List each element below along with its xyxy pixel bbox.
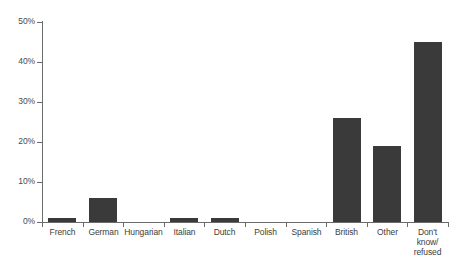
y-tick-label-text: 10% [3,176,35,186]
y-tick-label-text: 0% [3,216,35,226]
bar [48,218,76,222]
y-tick-label-text: 40% [3,56,35,66]
y-tick-mark [37,142,42,143]
x-axis-label: Hungarian [123,227,164,237]
x-axis-label: German [83,227,124,237]
y-tick-mark [37,22,42,23]
x-axis-label: Italian [164,227,205,237]
y-axis-line [42,21,43,223]
x-axis-label: Polish [245,227,286,237]
x-axis-label-line: British [326,227,367,237]
y-tick-mark [37,102,42,103]
x-axis-label: Don'tknow/refused [407,227,448,257]
bar [333,118,361,222]
x-axis-label-line: Other [367,227,408,237]
x-axis-label-line: Don't [407,227,448,237]
y-tick-label-text: 20% [3,136,35,146]
y-tick-mark [37,62,42,63]
x-axis-label: Dutch [204,227,245,237]
x-axis-label-line: Dutch [204,227,245,237]
y-tick-mark [37,182,42,183]
x-tick-mark [448,222,449,227]
x-axis-label-line: French [42,227,83,237]
x-axis-label-line: Spanish [286,227,327,237]
bar [373,146,401,222]
x-axis-label-line: Hungarian [123,227,164,237]
bar [89,198,117,222]
bar-chart: 0%10%20%30%40%50% FrenchGermanHungarianI… [0,0,464,270]
x-axis-label: Other [367,227,408,237]
x-axis-label-line: Italian [164,227,205,237]
x-axis-label-line: know/ [407,237,448,247]
y-tick-label-text: 50% [3,16,35,26]
y-tick-label-text: 30% [3,96,35,106]
x-axis-label: French [42,227,83,237]
x-axis-label-line: German [83,227,124,237]
bar [211,218,239,222]
x-axis-label: Spanish [286,227,327,237]
x-axis-label-line: Polish [245,227,286,237]
x-axis-label: British [326,227,367,237]
bar [170,218,198,222]
bar [414,42,442,222]
x-axis-label-line: refused [407,247,448,257]
